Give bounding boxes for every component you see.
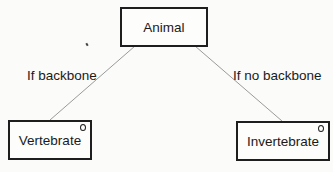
edge-backbone (50, 46, 135, 120)
edge-label-no-backbone: If no backbone (233, 68, 322, 83)
circle-marker-icon (80, 124, 86, 131)
edge-label-backbone: If backbone (27, 68, 97, 83)
node-vertebrate-label: Vertebrate (19, 133, 81, 148)
node-invertebrate: Invertebrate (236, 121, 330, 161)
circle-marker-icon (318, 125, 324, 132)
node-vertebrate: Vertebrate (8, 120, 92, 160)
node-invertebrate-label: Invertebrate (247, 134, 319, 149)
node-animal: Animal (120, 7, 208, 47)
edge-no-backbone (195, 46, 282, 121)
node-animal-label: Animal (143, 20, 184, 35)
